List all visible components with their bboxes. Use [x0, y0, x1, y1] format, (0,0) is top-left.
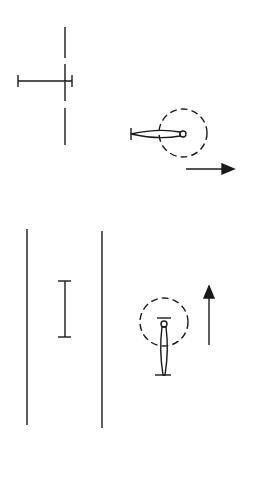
- figure-bottom-right: [140, 286, 214, 375]
- pivot-icon: [180, 131, 186, 137]
- arrow-up-icon: [204, 286, 214, 298]
- needle-horizontal: [131, 130, 180, 137]
- pivot-icon: [161, 321, 167, 327]
- figure-top-right: [131, 109, 234, 174]
- figure-bottom-left: [27, 229, 102, 428]
- figure-top-left: [18, 27, 72, 145]
- diagram-canvas: [0, 0, 273, 489]
- needle-vertical: [161, 327, 168, 375]
- arrow-right-icon: [222, 164, 234, 174]
